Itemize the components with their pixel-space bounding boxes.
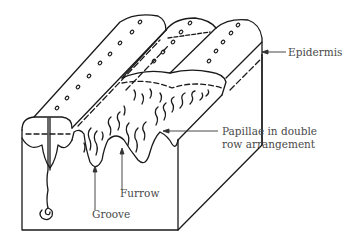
skin-ridge-diagram: Epidermis Papillae in double row arrange…	[0, 0, 351, 241]
groove-label: Groove	[92, 208, 130, 220]
block-diagram-drawing	[0, 0, 351, 241]
papillae-label-line2: row arrangement	[222, 138, 315, 150]
papillae-label-line1: Papillae in double	[222, 125, 317, 137]
epidermis-label: Epidermis	[288, 46, 342, 58]
furrow-label: Furrow	[120, 187, 159, 199]
